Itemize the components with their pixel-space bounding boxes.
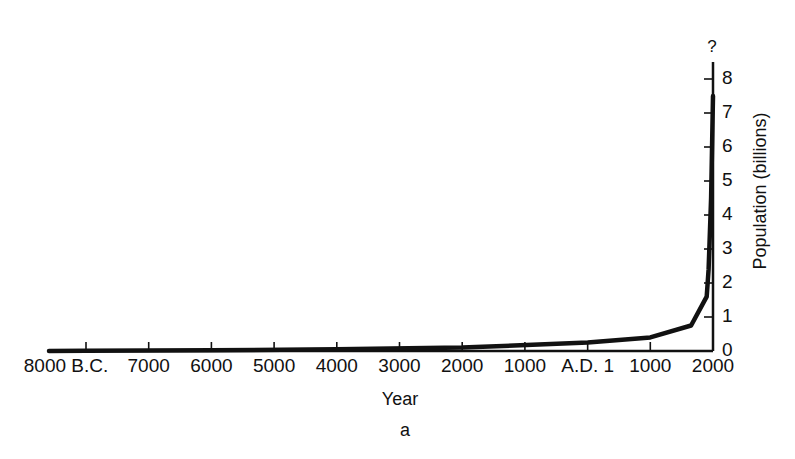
- y-tick-label: 6: [722, 135, 733, 157]
- y-tick-label: 0: [722, 339, 733, 361]
- x-tick-label: 3000: [378, 355, 420, 377]
- y-tick-label: 8: [722, 67, 733, 89]
- y-tick-label: 3: [722, 237, 733, 259]
- figure-caption: a: [400, 420, 410, 441]
- x-tick-label: 2000: [441, 355, 483, 377]
- y-tick-label: 1: [722, 305, 733, 327]
- x-tick-label: 4000: [316, 355, 358, 377]
- x-tick-label: 1000: [504, 355, 546, 377]
- y-tick-label: 7: [722, 101, 733, 123]
- y-tick-label: 5: [722, 169, 733, 191]
- y-axis-label: Population (billions): [750, 112, 771, 269]
- y-tick-label: 4: [722, 203, 733, 225]
- x-tick-label: 8000 B.C.: [24, 355, 109, 377]
- x-axis-label: Year: [382, 389, 418, 410]
- x-tick-label: 6000: [190, 355, 232, 377]
- x-tick-label: 1000: [629, 355, 671, 377]
- x-tick-label: A.D. 1: [561, 355, 614, 377]
- population-curve: [49, 96, 713, 351]
- unknown-future-annotation: ?: [707, 37, 716, 57]
- y-tick-label: 2: [722, 271, 733, 293]
- x-tick-label: 7000: [128, 355, 170, 377]
- x-tick-label: 5000: [253, 355, 295, 377]
